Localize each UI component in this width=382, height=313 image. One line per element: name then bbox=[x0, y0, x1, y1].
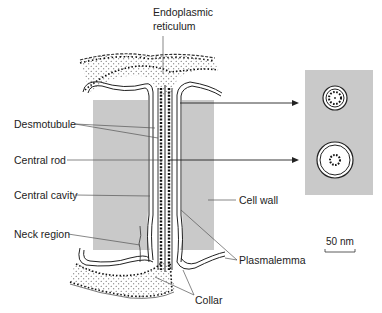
label-plasmalemma: Plasmalemma bbox=[239, 254, 306, 266]
label-er-line2: reticulum bbox=[153, 20, 196, 32]
arrowhead-upper bbox=[292, 100, 299, 106]
label-er-line1: Endoplasmic bbox=[153, 6, 213, 18]
top-cytoplasm-stipple bbox=[80, 54, 218, 95]
label-desmotubule: Desmotubule bbox=[14, 118, 76, 130]
scale-bar bbox=[325, 249, 355, 252]
label-cell-wall: Cell wall bbox=[239, 194, 278, 206]
plasmalemma-bottom-right-outer bbox=[177, 256, 225, 269]
label-collar: Collar bbox=[195, 294, 222, 306]
label-neck-region: Neck region bbox=[14, 228, 70, 240]
upper-cross-section bbox=[323, 86, 347, 110]
plasmalemma-top-right-inner bbox=[181, 86, 221, 96]
bottom-cytoplasm-stipple bbox=[70, 262, 175, 297]
lower-cross-section bbox=[317, 142, 353, 178]
arrowhead-lower bbox=[292, 157, 299, 163]
label-central-rod: Central rod bbox=[14, 154, 66, 166]
leader-collar-2 bbox=[183, 270, 194, 295]
label-scale-bar: 50 nm bbox=[326, 236, 354, 248]
plasmalemma-bottom-left-outer bbox=[79, 248, 153, 266]
label-central-cavity: Central cavity bbox=[14, 189, 78, 201]
